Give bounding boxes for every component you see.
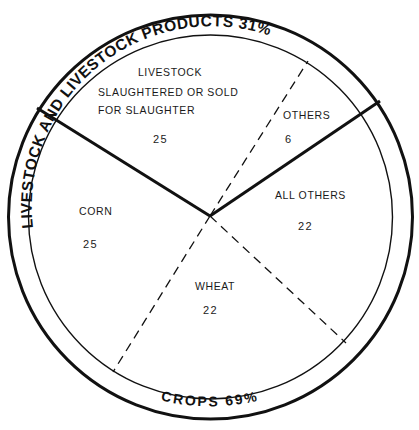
slice-divider-bottom-left [113, 216, 210, 372]
ring-top-label: LIVESTOCK AND LIVESTOCK PRODUCTS 31% [18, 12, 274, 229]
livestock-label-line3: FOR SLAUGHTER [98, 104, 195, 116]
others-label: OTHERS [283, 109, 330, 121]
wheat-value: 22 [203, 304, 218, 316]
livestock-value: 25 [153, 133, 168, 145]
livestock-label-line2: SLAUGHTERED OR SOLD [98, 86, 238, 98]
corn-value: 25 [83, 238, 98, 250]
ring-bottom-label: CROPS 69% [160, 388, 260, 410]
group-divider-left [37, 108, 210, 216]
corn-label: CORN [79, 205, 112, 217]
livestock-label-line1: LIVESTOCK [100, 66, 240, 78]
all-others-label: ALL OTHERS [275, 189, 346, 201]
livestock-label: LIVESTOCK [100, 66, 240, 78]
wheat-label: WHEAT [195, 280, 235, 292]
others-value: 6 [285, 133, 293, 145]
pie-chart: LIVESTOCK AND LIVESTOCK PRODUCTS 31% CRO… [0, 0, 419, 430]
all-others-value: 22 [298, 220, 313, 232]
